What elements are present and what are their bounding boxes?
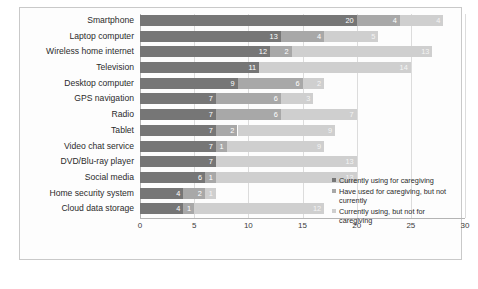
bar-segment: 2 <box>270 46 292 57</box>
legend-label: Currently using, but not for caregiving <box>339 207 452 225</box>
bar-segment: 4 <box>400 15 443 26</box>
bar-segment: 14 <box>259 62 411 73</box>
bar-row: Desktop computer962 <box>140 78 465 89</box>
bar-segment: 1 <box>216 141 227 152</box>
bar-segment: 7 <box>140 109 216 120</box>
bar-row: DVD/Blu-ray player713 <box>140 156 465 167</box>
chart-legend: Currently using for caregivingHave used … <box>332 176 452 227</box>
bar-row: Smartphone2044 <box>140 15 465 26</box>
bar-segment: 9 <box>227 141 325 152</box>
bar-segment: 7 <box>140 93 216 104</box>
category-label: Wireless home internet <box>46 45 134 57</box>
category-label: Cloud data storage <box>61 202 134 214</box>
category-label: GPS navigation <box>74 92 134 104</box>
category-label: DVD/Blu-ray player <box>60 155 134 167</box>
category-label: Tablet <box>111 124 134 136</box>
bar-segment: 12 <box>140 46 270 57</box>
legend-item: Currently using, but not for caregiving <box>332 207 452 225</box>
bar-segment: 2 <box>183 188 205 199</box>
category-label: Social media <box>85 171 134 183</box>
bar-segment: 13 <box>292 46 433 57</box>
bar-segment: 13 <box>216 156 357 167</box>
bar-segment: 5 <box>324 31 378 42</box>
bar-segment: 2 <box>216 125 238 136</box>
bar-segment: 7 <box>140 156 216 167</box>
legend-item: Have used for caregiving, but not curren… <box>332 187 452 205</box>
bar-row: Wireless home internet12213 <box>140 46 465 57</box>
bar-segment: 7 <box>140 141 216 152</box>
bar-segment: 12 <box>194 203 324 214</box>
x-tick-15: 15 <box>298 221 307 230</box>
category-label: Desktop computer <box>64 77 134 89</box>
bar-segment: 1 <box>205 172 216 183</box>
bar-segment: 6 <box>216 93 281 104</box>
legend-item: Currently using for caregiving <box>332 176 452 185</box>
bar-row: Radio767 <box>140 109 465 120</box>
bar-segment: 4 <box>357 15 400 26</box>
bar-segment: 6 <box>216 109 281 120</box>
bar-segment: 4 <box>140 188 183 199</box>
bar-segment: 1 <box>183 203 194 214</box>
x-tick-10: 10 <box>244 221 253 230</box>
bar-row: Television1114 <box>140 62 465 73</box>
bar-segment: 13 <box>140 31 281 42</box>
chart-figure: Smartphone2044Laptop computer1345Wireles… <box>19 7 462 260</box>
category-label: Laptop computer <box>70 30 135 42</box>
category-label: Video chat service <box>64 140 134 152</box>
bar-row: Video chat service719 <box>140 141 465 152</box>
bar-segment: 1 <box>205 188 216 199</box>
bar-segment: 4 <box>140 203 183 214</box>
bar-segment: 2 <box>303 78 325 89</box>
legend-label: Have used for caregiving, but not curren… <box>339 187 452 205</box>
legend-label: Currently using for caregiving <box>339 176 452 185</box>
legend-swatch <box>332 209 336 213</box>
bar-row: Laptop computer1345 <box>140 31 465 42</box>
bar-row: GPS navigation763 <box>140 93 465 104</box>
x-tick-30: 30 <box>461 221 470 230</box>
bar-segment: 4 <box>281 31 324 42</box>
category-label: Smartphone <box>87 14 134 26</box>
bar-segment: 7 <box>281 109 357 120</box>
bar-row: Tablet729 <box>140 125 465 136</box>
category-label: Home security system <box>49 187 134 199</box>
bar-segment: 20 <box>140 15 357 26</box>
bar-segment: 6 <box>140 172 205 183</box>
bar-segment: 11 <box>140 62 259 73</box>
bar-segment: 6 <box>238 78 303 89</box>
gridline-30 <box>465 14 466 218</box>
bar-segment: 9 <box>238 125 336 136</box>
x-tick-5: 5 <box>192 221 196 230</box>
legend-swatch <box>332 178 336 182</box>
bar-segment: 9 <box>140 78 238 89</box>
legend-swatch <box>332 189 336 193</box>
category-label: Television <box>96 61 134 73</box>
bar-segment: 7 <box>140 125 216 136</box>
x-tick-0: 0 <box>138 221 142 230</box>
category-label: Radio <box>112 108 134 120</box>
bar-segment: 3 <box>281 93 314 104</box>
